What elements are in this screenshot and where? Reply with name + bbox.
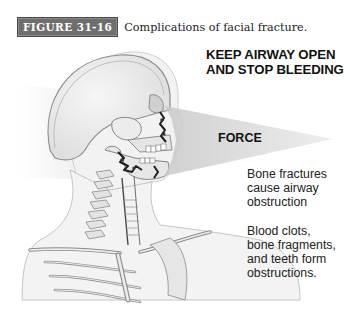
note2-line-4: obstructions. [247, 266, 336, 280]
headline-line-1: KEEP AIRWAY OPEN [206, 47, 344, 62]
headline-instruction: KEEP AIRWAY OPEN AND STOP BLEEDING [206, 47, 344, 77]
headline-line-2: AND STOP BLEEDING [206, 62, 344, 77]
note-obstructions: Blood clots, bone fragments, and teeth f… [247, 224, 336, 280]
note2-line-1: Blood clots, [247, 224, 336, 238]
note-bone-fractures: Bone fractures cause airway obstruction [247, 167, 327, 209]
note2-line-3: and teeth form [247, 252, 336, 266]
note1-line-2: cause airway [247, 181, 327, 195]
force-label: FORCE [218, 131, 262, 145]
note1-line-1: Bone fractures [247, 167, 327, 181]
lower-teeth [140, 158, 155, 163]
note1-line-3: obstruction [247, 195, 327, 209]
note2-line-2: bone fragments, [247, 238, 336, 252]
